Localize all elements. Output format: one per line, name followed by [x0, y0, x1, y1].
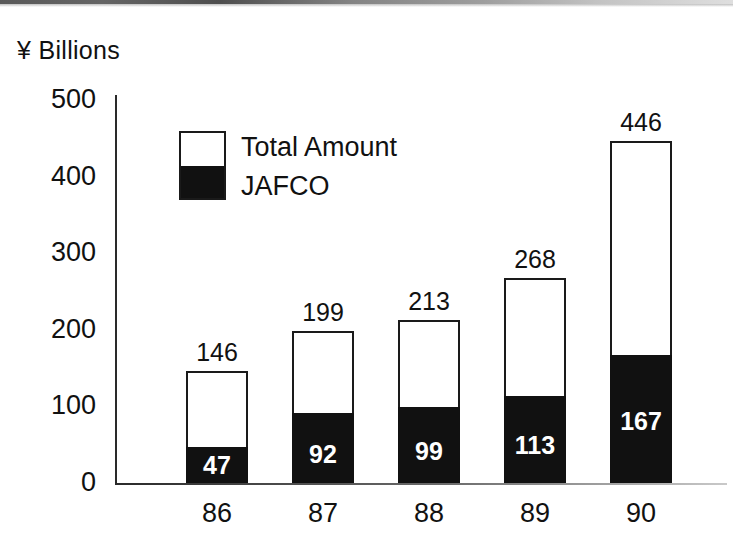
legend-label-jafco: JAFCO — [241, 173, 330, 200]
x-axis-tick-90: 90 — [596, 500, 686, 527]
bar-jafco-label-87: 92 — [282, 442, 364, 467]
bar-total-label-88: 213 — [386, 289, 472, 314]
bar-jafco-label-88: 99 — [388, 439, 470, 464]
y-axis-tick-500: 500 — [0, 86, 96, 113]
y-axis-title: ¥ Billions — [17, 36, 120, 65]
legend-label-total-amount: Total Amount — [241, 134, 397, 161]
x-axis-tick-89: 89 — [490, 500, 580, 527]
x-axis-line — [115, 483, 727, 485]
y-axis-tick-400: 400 — [0, 163, 96, 190]
bar-total-label-87: 199 — [280, 300, 366, 325]
bar-total-label-90: 446 — [598, 110, 684, 135]
bar-total-label-86: 146 — [174, 340, 260, 365]
chart-page: ¥ Billions 5004003002001000 146471999221… — [0, 0, 733, 548]
x-axis-tick-86: 86 — [172, 500, 262, 527]
bar-jafco-label-86: 47 — [176, 453, 258, 478]
y-axis-tick-100: 100 — [0, 392, 96, 419]
legend-swatch-jafco-fill — [181, 166, 224, 199]
y-axis-tick-0: 0 — [0, 469, 96, 496]
bar-jafco-label-90: 167 — [600, 409, 682, 434]
bar-jafco-label-89: 113 — [494, 433, 576, 458]
y-axis-line — [115, 95, 117, 485]
x-axis-tick-88: 88 — [384, 500, 474, 527]
legend-swatch-combined — [179, 131, 226, 200]
y-axis-tick-200: 200 — [0, 316, 96, 343]
scan-artifact-fade — [0, 4, 733, 7]
x-axis-tick-87: 87 — [278, 500, 368, 527]
y-axis-tick-300: 300 — [0, 239, 96, 266]
bar-total-label-89: 268 — [492, 247, 578, 272]
